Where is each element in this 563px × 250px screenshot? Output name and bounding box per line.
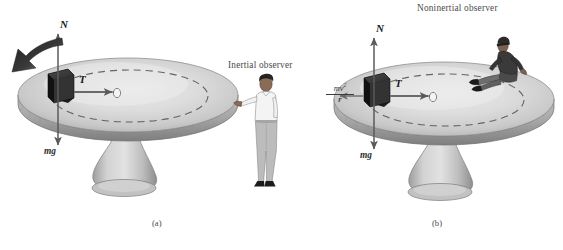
panel-b-caption: (b) xyxy=(432,219,442,228)
block-b xyxy=(364,73,390,107)
panel-b-illustration xyxy=(334,37,554,201)
centrifugal-numerator: mv2 xyxy=(326,83,354,94)
block-a xyxy=(48,69,74,103)
tension-force-label-a: T xyxy=(79,74,86,85)
normal-force-label-b: N xyxy=(376,23,384,34)
centrifugal-denominator: r xyxy=(326,95,354,104)
figure-illustration xyxy=(0,0,563,250)
panel-a-illustration xyxy=(12,34,278,197)
inertial-observer-label: Inertial observer xyxy=(228,61,293,70)
panel-a-caption: (a) xyxy=(152,219,162,228)
noninertial-observer-label: Noninertial observer xyxy=(417,4,498,13)
weight-force-label-a: mg xyxy=(44,147,56,156)
inertial-observer-figure xyxy=(234,74,278,187)
physics-figure: N T mg Inertial observer (a) N T mg mv2 … xyxy=(0,0,563,250)
tension-force-label-b: T xyxy=(395,78,402,89)
weight-force-label-b: mg xyxy=(360,151,372,160)
center-peg-a xyxy=(113,88,120,97)
center-peg-b xyxy=(429,92,436,101)
centrifugal-force-label-b: mv2 r xyxy=(326,83,354,105)
normal-force-label-a: N xyxy=(60,19,68,30)
